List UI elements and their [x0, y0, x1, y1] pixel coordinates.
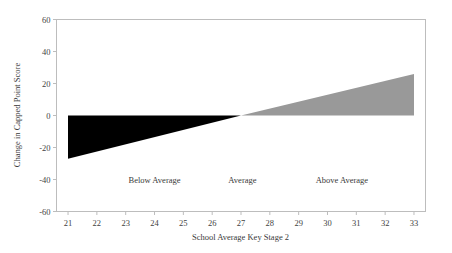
y-tick-label: 60 — [42, 15, 51, 25]
x-tick-label: 29 — [294, 218, 303, 228]
x-tick-label: 25 — [179, 218, 188, 228]
x-axis-title: School Average Key Stage 2 — [192, 232, 289, 242]
x-tick-label: 31 — [352, 218, 361, 228]
chart-annotations: Below AverageAverageAbove Average — [129, 175, 369, 185]
chart-container: 6040200-20-40-60 21222324252627282930313… — [0, 0, 452, 253]
chart-svg: 6040200-20-40-60 21222324252627282930313… — [0, 0, 452, 253]
x-tick-label: 26 — [208, 218, 217, 228]
x-tick-label: 33 — [410, 218, 419, 228]
x-tick-label: 28 — [266, 218, 275, 228]
x-tick-label: 21 — [64, 218, 73, 228]
x-tick-label: 22 — [93, 218, 102, 228]
y-tick-label: -20 — [39, 143, 50, 153]
y-tick-label: -60 — [39, 207, 50, 217]
y-tick-label: 20 — [42, 79, 51, 89]
annotation-label: Average — [228, 175, 256, 185]
y-axis-title: Change in Capped Point Score — [12, 63, 22, 168]
y-tick-label: -40 — [39, 175, 50, 185]
x-tick-label: 23 — [121, 218, 130, 228]
x-tick-label: 32 — [381, 218, 390, 228]
annotation-label: Below Average — [129, 175, 181, 185]
annotation-label: Above Average — [316, 175, 369, 185]
x-tick-label: 27 — [237, 218, 246, 228]
x-tick-label: 24 — [150, 218, 159, 228]
x-tick-label: 30 — [323, 218, 332, 228]
y-tick-label: 0 — [46, 111, 50, 121]
y-tick-label: 40 — [42, 47, 51, 57]
